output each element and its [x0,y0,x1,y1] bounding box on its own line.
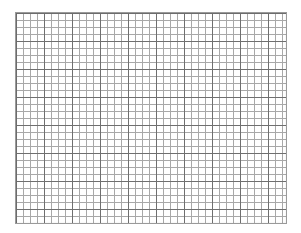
graph-paper-sheet [15,12,287,224]
grid-rulings [16,13,286,223]
